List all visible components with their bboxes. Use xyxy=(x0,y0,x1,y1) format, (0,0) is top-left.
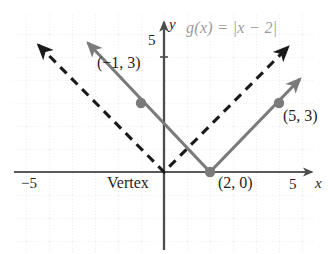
graph-figure: g(x) = |x − 2| x y 5 −5 5 Vertex (−1, 3)… xyxy=(0,0,328,254)
point-label-minus1-3: (−1, 3) xyxy=(97,55,141,71)
function-formula-label: g(x) = |x − 2| xyxy=(186,20,277,36)
y-tick-label-5: 5 xyxy=(148,33,156,48)
point-label-5-3: (5, 3) xyxy=(283,108,318,124)
y-axis-label: y xyxy=(169,17,176,32)
point-marker-vertex-2-0 xyxy=(205,167,215,177)
x-tick-label-minus-5: −5 xyxy=(21,176,37,191)
point-label-2-0: (2, 0) xyxy=(218,175,253,191)
x-tick-label-5: 5 xyxy=(289,177,297,192)
vertex-annotation-label: Vertex xyxy=(107,175,149,191)
x-axis-label: x xyxy=(315,176,322,191)
coordinate-plane-svg xyxy=(0,0,328,254)
point-marker-minus1-3 xyxy=(136,98,146,108)
